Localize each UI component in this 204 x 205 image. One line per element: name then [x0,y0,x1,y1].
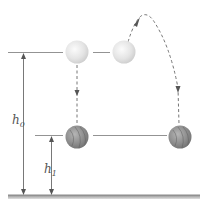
ball-final-left [66,126,89,149]
h0-label-main: h [12,113,20,127]
diagram-canvas [0,0,204,205]
ball-initial [66,41,89,64]
ground [8,195,200,199]
thrown-path [128,15,181,124]
drop-path [75,65,80,125]
h1-label-sub: 1 [52,169,57,178]
h0-label-sub: 0 [20,120,25,129]
h0-label: h0 [12,114,25,129]
ball-thrown [113,41,136,64]
h1-label-main: h [44,162,52,176]
diagram: h0 h1 [0,0,204,205]
ball-final-right [169,126,192,149]
h1-label: h1 [44,163,57,178]
